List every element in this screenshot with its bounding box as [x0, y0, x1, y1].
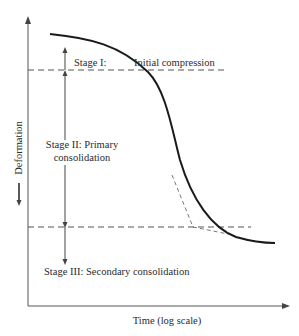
stage-3-label: Stage III: Secondary consolidation [44, 266, 190, 277]
stage-2-label-line1: Stage II: Primary [46, 139, 119, 150]
stage-1-label: Stage I: [74, 57, 106, 68]
tangent-line-steep [172, 175, 193, 227]
stage-1-description: Initial compression [134, 57, 216, 68]
x-axis-label: Time (log scale) [133, 315, 202, 327]
consolidation-diagram: Stage I: Initial compression Stage II: P… [0, 0, 299, 336]
stage-2-label-line2: consolidation [54, 152, 111, 163]
y-axis-label: Deformation [13, 120, 24, 174]
